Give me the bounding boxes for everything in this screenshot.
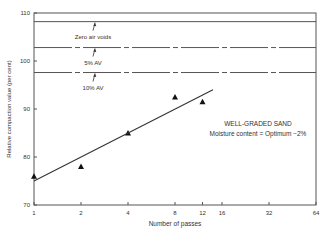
triangle-marker-icon [199,99,205,105]
axis-labels: Number of passes Relative compaction val… [6,60,307,228]
annotation-material: WELL-GRADED SAND [224,120,292,127]
x-tick-label: 2 [79,210,83,216]
trend-line [34,90,213,181]
arrowhead-icon [93,74,96,78]
annotation-moisture: Moisture content = Optimum −2% [210,130,307,138]
x-tick-label: 12 [199,210,206,216]
x-tick-label: 32 [266,210,273,216]
arrowhead-icon [93,23,96,27]
y-tick-label: 90 [23,106,30,112]
reference-label: 10% AV [83,85,104,91]
x-axis-label: Number of passes [149,220,202,228]
arrowhead-icon [93,49,96,53]
axes: 708090100110124812163264 [20,10,320,216]
reference-label: Zero air voids [75,34,111,40]
x-tick-label: 1 [32,210,36,216]
x-tick-label: 64 [313,210,320,216]
triangle-marker-icon [31,173,37,179]
data-series [31,90,213,181]
x-tick-label: 4 [126,210,130,216]
reference-label: 5% AV [84,60,102,66]
y-tick-label: 70 [23,202,30,208]
triangle-marker-icon [172,94,178,100]
y-tick-label: 110 [20,10,30,16]
reference-lines: Zero air voids5% AV10% AV [34,22,316,91]
y-tick-label: 80 [23,154,30,160]
x-tick-label: 16 [219,210,226,216]
compaction-chart: 708090100110124812163264 Zero air voids5… [0,0,326,232]
x-tick-label: 8 [173,210,177,216]
y-tick-label: 100 [20,58,31,64]
triangle-marker-icon [78,164,84,170]
y-axis-label: Relative compaction value (per cent) [6,60,12,157]
